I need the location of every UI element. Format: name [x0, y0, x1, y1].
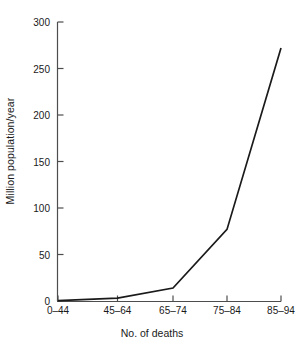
x-tick-label: 75–84	[213, 306, 241, 316]
data-series-line	[58, 48, 281, 301]
y-axis-ticks	[58, 22, 64, 301]
x-axis-title: No. of deaths	[0, 327, 304, 339]
line-chart-figure: Million population/year 0 50 100 150 200…	[0, 0, 304, 346]
x-axis-tick-labels: 0–44 45–64 65–74 75–84 85–94	[0, 306, 304, 320]
plot-area	[0, 0, 304, 346]
x-tick-label: 85–94	[267, 306, 295, 316]
x-tick-label: 65–74	[159, 306, 187, 316]
x-tick-label: 45–64	[104, 306, 132, 316]
x-tick-label: 0–44	[47, 306, 69, 316]
